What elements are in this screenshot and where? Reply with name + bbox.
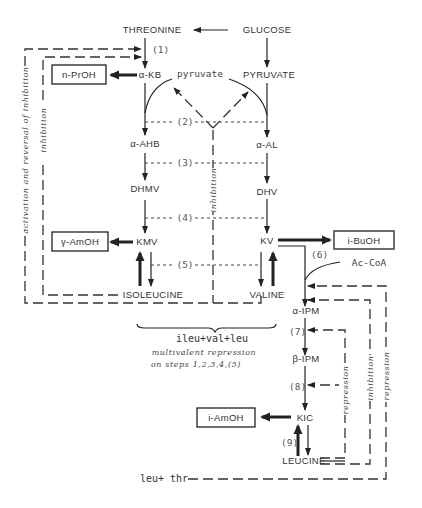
node-valine: VALINE xyxy=(250,289,285,300)
label-repression-inner: repression xyxy=(341,366,350,415)
product-ibuoh-label: i-BuOH xyxy=(348,235,381,246)
label-leu-thr: leu+ thr xyxy=(140,473,188,484)
step-9: (9) xyxy=(281,437,298,448)
node-isoleucine: ISOLEUCINE xyxy=(123,289,184,300)
step-6: (6) xyxy=(311,249,328,260)
step-7: (7) xyxy=(289,326,306,337)
label-repression-outer: repression xyxy=(382,352,391,401)
step-3: (3) xyxy=(176,157,193,168)
label-activation-reversal: activation and reversal of inhibition xyxy=(21,66,30,233)
brace xyxy=(137,324,276,332)
multivalent-effectors: ileu+val+leu xyxy=(176,333,248,344)
pathway-diagram: n-PrOH γ-AmOH i-BuOH i-AmOH THREONINE GL… xyxy=(0,0,422,508)
node-dhv: DHV xyxy=(257,186,278,197)
node-leucine: LEUCINE xyxy=(282,455,325,466)
node-aal: α-AL xyxy=(256,139,277,150)
step-5: (5) xyxy=(176,259,193,270)
multivalent-line1: multivalent repression xyxy=(152,348,257,357)
product-iamoh-label: i-AmOH xyxy=(208,412,244,423)
node-kv: KV xyxy=(260,235,274,246)
product-iamoh: i-AmOH xyxy=(197,408,255,427)
label-inhibition-right: inhibition xyxy=(366,356,375,401)
node-aahb: α-AHB xyxy=(130,138,160,149)
product-yamoh-label: γ-AmOH xyxy=(61,236,99,247)
product-ibuoh: i-BuOH xyxy=(334,231,394,249)
product-nproh: n-PrOH xyxy=(52,65,106,84)
step-8: (8) xyxy=(289,381,306,392)
product-yamoh: γ-AmOH xyxy=(52,232,108,251)
arc-pyruvate-left xyxy=(145,79,172,113)
step-connectors xyxy=(145,122,267,265)
step-2: (2) xyxy=(176,116,193,127)
node-glucose: GLUCOSE xyxy=(243,24,292,35)
node-threonine: THREONINE xyxy=(123,24,182,35)
arc-accoa xyxy=(305,262,340,280)
node-kic: KIC xyxy=(297,412,314,423)
node-kmv: KMV xyxy=(136,236,158,247)
arc-pyruvate-right xyxy=(229,79,267,115)
node-aipm: α-IPM xyxy=(292,305,319,316)
node-dhmv: DHMV xyxy=(130,183,160,194)
label-inhibition-center: inhibition xyxy=(209,168,218,213)
product-nproh-label: n-PrOH xyxy=(62,69,96,80)
node-akb: α-KB xyxy=(139,69,162,80)
node-bipm: β-IPM xyxy=(292,353,319,364)
node-pyruvate: pyruvate xyxy=(177,68,223,79)
multivalent-line2: on steps 1,2,3,4,(5) xyxy=(151,360,241,369)
node-accoa: Ac-CoA xyxy=(352,257,387,268)
node-pyruvate-upper: PYRUVATE xyxy=(243,69,295,80)
label-inhibition-left: inhibition xyxy=(39,108,48,153)
step-1: (1) xyxy=(152,44,169,55)
step-4: (4) xyxy=(176,212,193,223)
right-feedback-loops xyxy=(188,286,386,479)
